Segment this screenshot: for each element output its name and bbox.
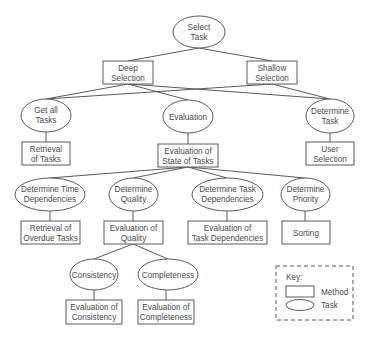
svg-text:Tasks: Tasks xyxy=(36,116,57,125)
node-get-all-tasks: Get all Tasks xyxy=(21,99,71,132)
svg-text:Consistency: Consistency xyxy=(72,271,118,280)
svg-text:Retrieval of: Retrieval of xyxy=(30,224,72,233)
node-retrieval-of-tasks: Retrieval of Tasks xyxy=(22,142,70,165)
node-consistency: Consistency xyxy=(70,259,118,290)
legend-task-symbol xyxy=(286,300,314,311)
node-determine-task-dependencies: Determine Task Dependencies xyxy=(192,178,263,211)
svg-text:Overdue Tasks: Overdue Tasks xyxy=(23,234,77,243)
node-determine-quality: Determine Quality xyxy=(109,178,158,211)
legend-title: Key: xyxy=(286,273,302,282)
svg-text:of Tasks: of Tasks xyxy=(31,155,61,164)
svg-text:Get all: Get all xyxy=(34,106,58,115)
node-shallow-selection: Shallow Selection xyxy=(247,61,297,84)
node-sorting: Sorting xyxy=(282,221,330,244)
svg-text:Completeness: Completeness xyxy=(140,313,192,322)
node-determine-priority: Determine Priority xyxy=(281,178,330,211)
edge-evalquality-consistency xyxy=(94,244,133,259)
node-evaluation-of-consistency: Evaluation of Consistency xyxy=(66,300,122,324)
node-retrieval-of-overdue-tasks: Retrieval of Overdue Tasks xyxy=(21,221,80,244)
node-deep-selection: Deep Selection xyxy=(103,61,153,84)
svg-text:Select: Select xyxy=(188,23,211,32)
svg-text:Evaluation of: Evaluation of xyxy=(110,224,158,233)
svg-text:Task Dependencies: Task Dependencies xyxy=(192,234,263,243)
svg-text:Evaluation: Evaluation xyxy=(169,113,208,122)
node-evaluation-of-quality: Evaluation of Quality xyxy=(104,221,163,244)
edge-state-quality xyxy=(133,167,188,178)
legend-method-symbol xyxy=(286,286,314,297)
node-evaluation-of-task-dependencies: Evaluation of Task Dependencies xyxy=(188,221,267,244)
edge-evalquality-completeness xyxy=(133,244,168,259)
node-evaluation-of-state: Evaluation of State of Tasks xyxy=(158,144,218,167)
legend-key: Key: Method Task xyxy=(276,266,353,320)
node-determine-task: Determine Task xyxy=(306,99,354,133)
node-evaluation: Evaluation xyxy=(163,100,213,133)
node-determine-time-dependencies: Determine Time Dependencies xyxy=(15,178,85,211)
svg-text:Determine: Determine xyxy=(115,185,153,194)
svg-text:Retrieval: Retrieval xyxy=(30,145,62,154)
node-completeness: Completeness xyxy=(138,259,198,290)
legend-method-label: Method xyxy=(321,288,349,297)
svg-text:Deep: Deep xyxy=(118,64,138,73)
svg-text:Sorting: Sorting xyxy=(293,229,319,238)
svg-text:Evaluation of: Evaluation of xyxy=(164,147,212,156)
svg-text:Shallow: Shallow xyxy=(258,64,287,73)
svg-text:Evaluation of: Evaluation of xyxy=(70,303,118,312)
svg-text:Task: Task xyxy=(322,117,340,126)
svg-text:Determine: Determine xyxy=(287,185,325,194)
svg-text:Completeness: Completeness xyxy=(142,271,194,280)
node-evaluation-of-completeness: Evaluation of Completeness xyxy=(138,300,194,324)
svg-text:Selection: Selection xyxy=(313,155,347,164)
edge-select-shallow xyxy=(199,48,272,61)
edge-state-time xyxy=(50,167,188,178)
svg-text:Determine Task: Determine Task xyxy=(199,185,257,194)
svg-text:Priority: Priority xyxy=(293,195,319,204)
task-hierarchy-diagram: Select Task Deep Selection Shallow Selec… xyxy=(0,0,371,339)
node-user-selection: User Selection xyxy=(306,142,354,165)
svg-text:Dependencies: Dependencies xyxy=(24,195,76,204)
svg-text:Quality: Quality xyxy=(121,234,147,243)
svg-text:Evaluation of: Evaluation of xyxy=(204,224,252,233)
svg-text:Determine Time: Determine Time xyxy=(21,185,79,194)
svg-text:Task: Task xyxy=(191,33,209,42)
legend-task-label: Task xyxy=(321,301,339,310)
svg-text:Selection: Selection xyxy=(111,74,145,83)
edge-state-priority xyxy=(188,167,305,178)
svg-text:Selection: Selection xyxy=(255,74,289,83)
svg-text:Quality: Quality xyxy=(121,195,147,204)
node-select-task: Select Task xyxy=(173,16,225,48)
svg-text:User: User xyxy=(321,145,339,154)
svg-text:Dependencies: Dependencies xyxy=(201,195,253,204)
svg-text:Consistency: Consistency xyxy=(72,313,118,322)
svg-text:State of Tasks: State of Tasks xyxy=(162,157,213,166)
svg-text:Evaluation of: Evaluation of xyxy=(142,303,190,312)
edge-select-deep xyxy=(128,48,199,61)
svg-text:Determine: Determine xyxy=(311,107,349,116)
